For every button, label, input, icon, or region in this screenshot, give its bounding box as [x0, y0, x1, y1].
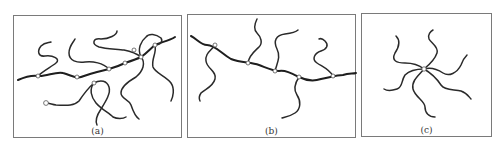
panel-c: (c): [361, 13, 492, 137]
comb-polymer-diagram: [188, 15, 357, 139]
branched-polymer-diagram: [14, 16, 183, 139]
star-polymer-diagram: [362, 14, 493, 138]
panel-a: (a): [13, 15, 182, 138]
panel-label-a: (a): [14, 126, 181, 136]
panel-label-c: (c): [362, 125, 491, 135]
panel-b: (b): [187, 14, 356, 138]
panel-label-b: (b): [188, 126, 355, 136]
